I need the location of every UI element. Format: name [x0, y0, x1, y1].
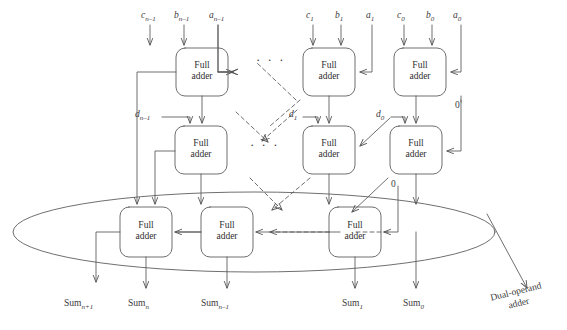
- final-adder-n-label: Full adder: [201, 220, 253, 242]
- constant-zero-lower: 0: [391, 180, 396, 190]
- input-b-1: b1: [335, 11, 343, 23]
- constant-zero-upper: 0: [455, 101, 460, 111]
- final-adder-lsb-label: Full adder: [329, 220, 381, 242]
- input-c-0: c0: [397, 11, 405, 23]
- carry-fa-d-n-1-left: [155, 151, 175, 204]
- input-a-0: a0: [453, 11, 461, 23]
- d-0-into-box: [391, 117, 405, 123]
- carry-save-adder-diagram: Full adder Full adder Full adder Full ad…: [0, 0, 567, 330]
- output-sum-n: Sumn: [128, 299, 149, 311]
- input-b-0: b0: [426, 11, 434, 23]
- adder-line-1: Full: [194, 60, 209, 70]
- dual-operand-adder-boundary: [13, 192, 495, 272]
- input-c-n-1: cn–1: [141, 11, 156, 23]
- signal-d-n-1: dn–1: [135, 110, 150, 122]
- signal-d-1: d1: [289, 110, 297, 122]
- dashed-diag-row2-c: [272, 178, 310, 210]
- signal-d-0: d0: [376, 110, 384, 122]
- a-1-into-box: [360, 25, 372, 72]
- output-sum-1: Sum1: [342, 299, 363, 311]
- annotation-leader: [487, 214, 527, 288]
- output-sum-n-1: Sumn–1: [201, 299, 229, 311]
- input-a-n-1: an–1: [209, 11, 224, 23]
- a-0-into-box: [451, 25, 461, 72]
- input-b-n-1: bn–1: [174, 11, 189, 23]
- carry-fa-n-1-left: [137, 72, 176, 204]
- full-adder-d-0-label: Full adder: [390, 138, 442, 160]
- ellipsis-row-2: · · ·: [250, 137, 280, 153]
- full-adder-1-label: Full adder: [303, 60, 355, 82]
- input-a-1: a1: [366, 11, 374, 23]
- diagram-canvas: [0, 0, 567, 330]
- d-n-1-into-box: [162, 117, 190, 123]
- input-c-1: c1: [306, 11, 314, 23]
- zero-into-final-lsb: [384, 186, 398, 232]
- full-adder-d-1-label: Full adder: [303, 138, 355, 160]
- full-adder-0-label: Full adder: [394, 60, 446, 82]
- diag-fa-0-to-fa-1: [360, 118, 390, 146]
- full-adder-n-1-label: Full adder: [176, 60, 228, 82]
- final-msb-left-wire: [96, 232, 120, 282]
- final-adder-msb-label: Full adder: [120, 220, 172, 242]
- adder-line-2: adder: [191, 71, 212, 81]
- full-adder-d-n-1-label: Full adder: [175, 138, 227, 160]
- output-sum-0: Sum0: [403, 299, 424, 311]
- ellipsis-row-1: · · ·: [256, 52, 286, 68]
- output-sum-n+1: Sumn+1: [64, 299, 93, 311]
- d-1-into-box: [303, 117, 318, 123]
